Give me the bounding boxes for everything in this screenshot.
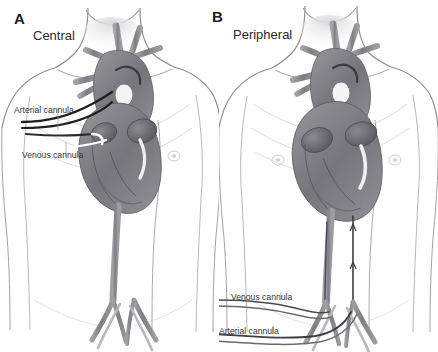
panel-b-peripheral: B Peripheral Venous cannula Arterial can… <box>219 0 438 352</box>
panel-a-illustration <box>0 0 219 352</box>
heart-a <box>79 103 161 213</box>
nipple-right-b <box>389 155 401 165</box>
panel-b-venous-cannula-label: Venous cannula <box>231 293 292 302</box>
venous-cannula-line-a <box>26 134 92 136</box>
panel-a-venous-cannula-label: Venous cannula <box>22 151 83 160</box>
heart-b <box>292 102 382 222</box>
panel-a-letter: A <box>14 11 25 26</box>
panel-a-arterial-cannula-label: Arterial cannula <box>14 106 74 115</box>
panel-b-letter: B <box>212 9 223 24</box>
panel-a-title: Central <box>33 29 75 42</box>
panel-b-title: Peripheral <box>233 28 292 41</box>
panel-a-central: A Central Arterial cannula Venous cannul… <box>0 0 219 352</box>
descending-vessels-a <box>92 204 156 350</box>
panel-b-arterial-cannula-label: Arterial cannula <box>219 327 279 336</box>
descending-vessels-b <box>306 210 375 352</box>
figure-two-panel-cannulation: A Central Arterial cannula Venous cannul… <box>0 0 438 352</box>
nipple-right-a <box>168 151 180 161</box>
